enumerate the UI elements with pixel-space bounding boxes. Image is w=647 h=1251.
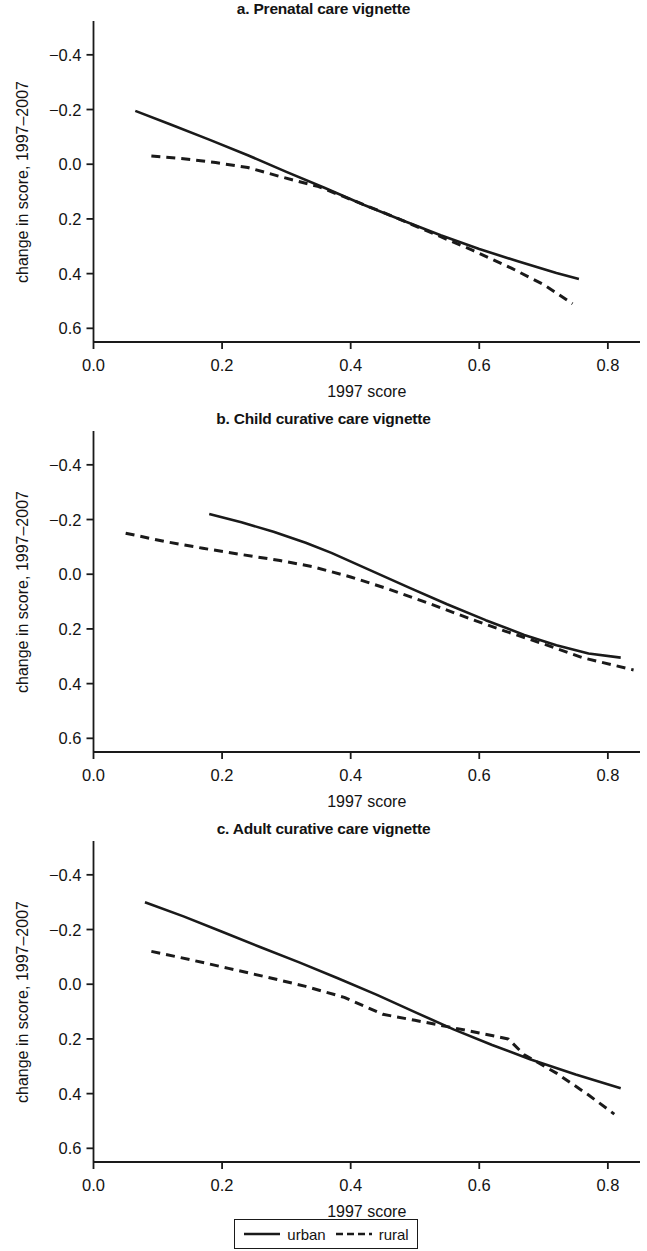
legend-entry-urban: urban (243, 1226, 325, 1243)
figure-legend: urban rural (234, 1219, 418, 1249)
series-line-urban (135, 111, 579, 279)
y-tick-label: 0.6 (59, 729, 82, 747)
legend-label-urban: urban (287, 1226, 325, 1243)
y-tick-label: −0.2 (49, 511, 82, 529)
series-line-urban (209, 514, 620, 658)
x-tick-label: 0.6 (468, 1176, 491, 1194)
series-line-rural (151, 951, 614, 1114)
series-line-rural (151, 156, 572, 304)
x-tick-label: 0.6 (468, 356, 491, 374)
y-axis-title: change in score, 1997–2007 (14, 901, 31, 1103)
panel-adult-curative-care: c. Adult curative care vignette −0.4−0.2… (0, 820, 647, 1230)
y-tick-label: 0.2 (59, 620, 82, 638)
y-axis-title: change in score, 1997–2007 (14, 81, 31, 283)
y-tick-label: −0.4 (49, 46, 82, 64)
plot-b: −0.4−0.20.00.20.40.60.00.20.40.60.81997 … (0, 410, 647, 820)
y-tick-label: 0.0 (59, 565, 82, 583)
y-tick-label: 0.4 (59, 1085, 82, 1103)
y-tick-label: 0.0 (59, 155, 82, 173)
panel-prenatal-care: a. Prenatal care vignette −0.4−0.20.00.2… (0, 0, 647, 410)
y-tick-label: −0.4 (49, 866, 82, 884)
x-tick-label: 0.8 (596, 1176, 619, 1194)
plot-c: −0.4−0.20.00.20.40.60.00.20.40.60.81997 … (0, 820, 647, 1230)
y-tick-label: −0.2 (49, 101, 82, 119)
x-tick-label: 0.4 (339, 766, 362, 784)
y-tick-label: 0.4 (59, 675, 82, 693)
legend-label-rural: rural (379, 1226, 409, 1243)
x-tick-label: 0.2 (211, 1176, 234, 1194)
legend-entry-rural: rural (335, 1226, 409, 1243)
y-axis-title: change in score, 1997–2007 (14, 491, 31, 693)
x-tick-label: 0.8 (596, 356, 619, 374)
solid-line-swatch (243, 1229, 281, 1239)
panel-child-curative-care: b. Child curative care vignette −0.4−0.2… (0, 410, 647, 820)
y-tick-label: 0.2 (59, 1030, 82, 1048)
y-tick-label: 0.6 (59, 319, 82, 337)
x-axis-title: 1997 score (327, 383, 406, 400)
y-tick-label: 0.0 (59, 975, 82, 993)
x-axis-title: 1997 score (327, 1203, 406, 1220)
dashed-line-swatch (335, 1229, 373, 1239)
x-tick-label: 0.0 (82, 766, 105, 784)
x-tick-label: 0.6 (468, 766, 491, 784)
y-tick-label: 0.4 (59, 265, 82, 283)
x-tick-label: 0.0 (82, 356, 105, 374)
y-tick-label: 0.6 (59, 1139, 82, 1157)
x-tick-label: 0.0 (82, 1176, 105, 1194)
y-tick-label: 0.2 (59, 210, 82, 228)
series-line-rural (126, 533, 634, 670)
x-tick-label: 0.2 (211, 356, 234, 374)
y-tick-label: −0.4 (49, 456, 82, 474)
figure-container: a. Prenatal care vignette −0.4−0.20.00.2… (0, 0, 647, 1251)
x-tick-label: 0.4 (339, 1176, 362, 1194)
x-tick-label: 0.8 (596, 766, 619, 784)
x-tick-label: 0.2 (211, 766, 234, 784)
x-axis-title: 1997 score (327, 793, 406, 810)
x-tick-label: 0.4 (339, 356, 362, 374)
plot-a: −0.4−0.20.00.20.40.60.00.20.40.60.81997 … (0, 0, 647, 410)
y-tick-label: −0.2 (49, 921, 82, 939)
series-line-urban (145, 902, 621, 1088)
